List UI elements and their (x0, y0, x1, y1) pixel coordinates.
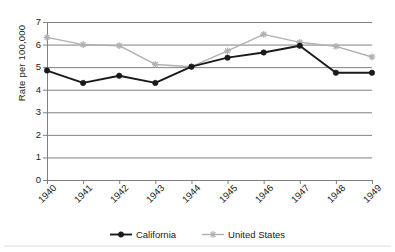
y-tick-label: 0 (25, 175, 41, 185)
y-tick-label: 2 (25, 130, 41, 140)
legend-label: California (136, 229, 176, 240)
data-point-marker (117, 73, 122, 78)
legend-marker-circle-icon (110, 229, 132, 240)
y-tick-label: 3 (25, 107, 41, 117)
y-tick-label: 6 (25, 40, 41, 50)
data-point-marker (225, 55, 230, 60)
data-point-marker (332, 43, 339, 50)
figure-bottom-rule (4, 245, 391, 247)
legend-marker-star-icon (202, 229, 224, 240)
data-point-marker (80, 80, 85, 85)
data-point-marker (210, 231, 217, 238)
x-tick-label: 1944 (173, 175, 209, 211)
data-point-marker (44, 68, 49, 73)
x-tick-label: 1941 (65, 175, 101, 211)
chart-figure: Rate per 100,000 01234567 19401941194219… (0, 0, 395, 252)
legend-entry-united-states[interactable]: United States (202, 229, 285, 240)
chart-legend: CaliforniaUnited States (0, 226, 395, 242)
legend-entry-california[interactable]: California (110, 229, 176, 240)
legend-label: United States (228, 229, 285, 240)
x-tick-label: 1947 (282, 175, 318, 211)
x-tick-label: 1943 (137, 175, 173, 211)
data-point-marker (224, 47, 231, 54)
data-point-marker (260, 31, 267, 38)
plot-area (47, 22, 372, 180)
x-axis-tick-labels: 1940194119421943194419451946194719481949 (47, 180, 372, 225)
x-tick-label: 1948 (318, 175, 354, 211)
x-tick-label: 1946 (246, 175, 282, 211)
data-point-marker (369, 70, 374, 75)
series-california (44, 43, 374, 86)
y-tick-label: 4 (25, 85, 41, 95)
data-point-marker (297, 43, 302, 48)
y-tick-label: 1 (25, 152, 41, 162)
y-tick-label: 5 (25, 62, 41, 72)
data-point-marker (153, 80, 158, 85)
y-tick-label: 7 (25, 17, 41, 27)
data-point-marker (261, 50, 266, 55)
y-axis-tick-labels: 01234567 (25, 22, 41, 180)
data-point-marker (333, 70, 338, 75)
x-tick-label: 1945 (210, 175, 246, 211)
plot-svg (47, 22, 372, 180)
data-point-marker (189, 64, 194, 69)
data-point-marker (116, 42, 123, 49)
data-point-marker (118, 231, 123, 236)
data-point-marker (44, 34, 51, 41)
series-line (47, 46, 372, 83)
x-tick-label: 1942 (101, 175, 137, 211)
data-point-marker (80, 41, 87, 48)
data-point-marker (152, 61, 159, 68)
data-point-marker (369, 54, 376, 61)
